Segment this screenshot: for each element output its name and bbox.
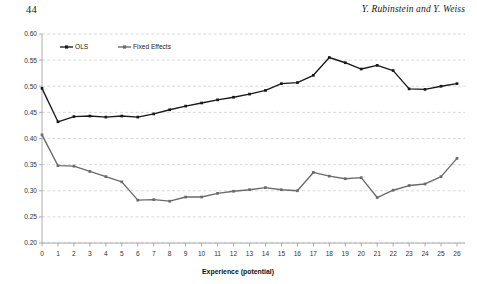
data-point [73,165,76,168]
chart-x-axis [42,243,465,247]
x-tick-label: 21 [374,250,382,257]
data-point [232,190,235,193]
data-point [152,198,155,201]
x-tick-label: 20 [358,250,366,257]
data-point [200,102,203,105]
data-point [312,74,315,77]
legend-marker-swatch [65,45,68,48]
x-tick-label: 9 [184,250,188,257]
line-chart: 0.600.550.500.450.400.350.300.250.20 012… [0,22,477,284]
x-tick-label: 13 [246,250,254,257]
data-point [280,82,283,85]
data-point [456,82,459,85]
data-point [280,188,283,191]
chart-y-tick-labels: 0.600.550.500.450.400.350.300.250.20 [24,30,37,246]
data-point [344,177,347,180]
data-point [360,176,363,179]
data-point [296,81,299,84]
x-axis-title: Experience (potential) [202,268,274,276]
x-tick-label: 19 [342,250,350,257]
x-tick-label: 0 [40,250,44,257]
chart-x-tick-labels: 0123456789101112131415161718192021222324… [40,250,461,257]
data-point [41,133,44,136]
x-tick-label: 7 [152,250,156,257]
data-point [248,188,251,191]
x-tick-label: 14 [262,250,270,257]
data-point [57,164,60,167]
chart-y-axis [39,34,42,243]
data-point [376,196,379,199]
data-point [408,184,411,187]
x-tick-label: 11 [214,250,221,257]
x-tick-label: 23 [405,250,413,257]
data-point [296,189,299,192]
x-tick-label: 1 [56,250,60,257]
data-point [168,108,171,111]
figure-chart: 0.600.550.500.450.400.350.300.250.20 012… [0,22,477,284]
data-point [105,116,108,119]
y-tick-label: 0.35 [24,161,37,168]
data-point [424,88,427,91]
data-point [120,115,123,118]
page: 44 Y. Rubinstein and Y. Weiss 0.600.550.… [0,0,477,284]
data-point [89,170,92,173]
data-point [105,175,108,178]
chart-legend: OLSFixed Effects [60,43,172,50]
data-point [264,89,267,92]
x-tick-label: 24 [421,250,429,257]
running-head: 44 Y. Rubinstein and Y. Weiss [0,0,477,22]
legend-label: Fixed Effects [133,43,172,50]
y-tick-label: 0.25 [24,213,37,220]
legend-marker-swatch [123,45,126,48]
legend-item-ols[interactable]: OLS [60,43,89,50]
page-number: 44 [26,4,37,15]
y-tick-label: 0.50 [24,83,37,90]
legend-label: OLS [75,43,89,50]
data-point [312,171,315,174]
data-point [89,115,92,118]
data-point [136,116,139,119]
chart-series-layer [41,56,459,202]
data-point [184,196,187,199]
y-tick-label: 0.60 [24,30,37,37]
data-point [184,105,187,108]
data-point [392,189,395,192]
series-ols [41,56,459,123]
x-tick-label: 22 [389,250,397,257]
x-tick-label: 2 [72,250,76,257]
data-point [376,64,379,67]
data-point [152,113,155,116]
data-point [136,199,139,202]
data-point [41,87,44,90]
data-point [328,175,331,178]
y-tick-label: 0.20 [24,239,37,246]
y-tick-label: 0.45 [24,109,37,116]
data-point [200,196,203,199]
y-tick-label: 0.40 [24,135,37,142]
x-tick-label: 3 [88,250,92,257]
chart-gridlines [42,34,465,243]
data-point [248,93,251,96]
x-tick-label: 16 [294,250,302,257]
x-tick-label: 10 [198,250,206,257]
x-tick-label: 4 [104,250,108,257]
data-point [216,192,219,195]
x-tick-label: 6 [136,250,140,257]
x-tick-label: 12 [230,250,238,257]
data-point [168,200,171,203]
x-tick-label: 8 [168,250,172,257]
data-point [57,120,60,123]
legend-item-fixed-effects[interactable]: Fixed Effects [118,43,172,50]
x-tick-label: 5 [120,250,124,257]
x-tick-label: 18 [326,250,334,257]
data-point [73,115,76,118]
x-tick-label: 17 [310,250,318,257]
data-point [344,61,347,64]
running-head-authors: Y. Rubinstein and Y. Weiss [362,4,465,14]
data-point [408,88,411,91]
data-point [440,85,443,88]
data-point [328,56,331,59]
series-fixed-effects [41,133,459,202]
x-tick-label: 26 [453,250,461,257]
x-tick-label: 15 [278,250,286,257]
